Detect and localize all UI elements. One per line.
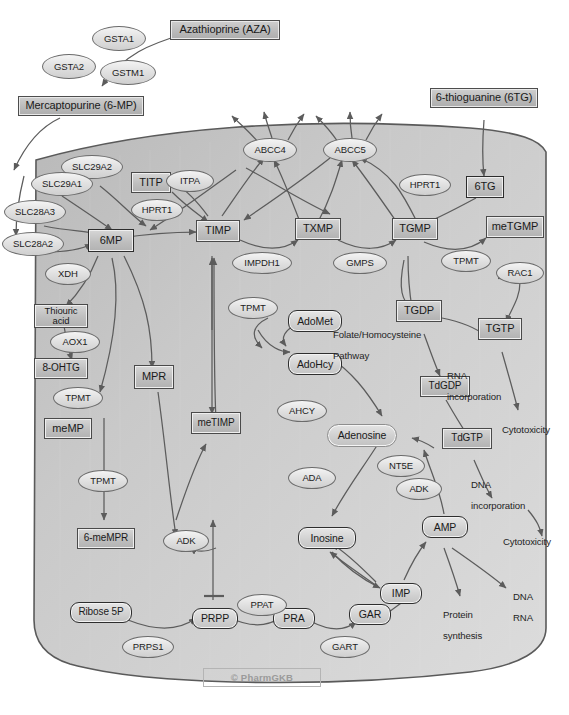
metabolite-label: IMP [392, 588, 410, 599]
enzyme-ahcy[interactable]: AHCY [277, 400, 327, 422]
enzyme-label: IMPDH1 [244, 258, 279, 268]
annotation-line2: RNA [513, 613, 533, 624]
watermark-text: © PharmGKB [231, 672, 293, 683]
enzyme-gmps[interactable]: GMPS [333, 252, 387, 274]
annotation-cytotoxicity-rna: Cytotoxicity [502, 424, 568, 437]
transporter-slc29a1[interactable]: SLC29A1 [31, 172, 93, 196]
enzyme-label: PPAT [250, 600, 273, 610]
annotation-line1: RNA [447, 371, 501, 382]
enzyme-aox1[interactable]: AOX1 [50, 331, 100, 353]
metabolite-label: Adenosine [338, 430, 387, 441]
metabolite-timp[interactable]: TIMP [196, 220, 240, 242]
metabolite-titp[interactable]: TITP [131, 172, 171, 193]
drug-box-mercaptopurine[interactable]: Mercaptopurine (6-MP) [18, 96, 144, 116]
enzyme-label: AHCY [289, 406, 315, 416]
metabolite-label: 6TG [474, 181, 495, 192]
enzyme-gart[interactable]: GART [320, 636, 370, 658]
annotation-line1: DNA [471, 480, 525, 491]
metabolite-label: AdoMet [297, 316, 333, 327]
enzyme-label: HPRT1 [142, 205, 172, 215]
enzyme-tpmt-8ohtg[interactable]: TPMT [53, 387, 103, 409]
metabolite-prpp[interactable]: PRPP [192, 608, 238, 629]
enzyme-label: AOX1 [63, 337, 88, 347]
enzyme-itpa[interactable]: ITPA [166, 170, 214, 192]
metabolite-gar[interactable]: GAR [349, 604, 391, 625]
enzyme-adk-mpr[interactable]: ADK [163, 530, 209, 552]
metabolite-metimp[interactable]: meTIMP [191, 412, 241, 434]
enzyme-tpmt-timp[interactable]: TPMT [228, 297, 278, 319]
metabolite-txmp[interactable]: TXMP [295, 218, 341, 240]
metabolite-tgtp[interactable]: TGTP [478, 318, 522, 340]
metabolite-6mp[interactable]: 6MP [88, 229, 134, 252]
annotation-line1: Folate/Homocysteine [333, 330, 421, 341]
enzyme-label: RAC1 [508, 268, 533, 278]
metabolite-mpr[interactable]: MPR [134, 365, 174, 389]
metabolite-ribose-5p[interactable]: Ribose 5P [70, 602, 132, 623]
enzyme-label: TPMT [65, 393, 90, 403]
transporter-abcc4[interactable]: ABCC4 [243, 138, 297, 162]
metabolite-label: Ribose 5P [78, 607, 123, 617]
enzyme-tpmt-tgmp[interactable]: TPMT [441, 250, 491, 272]
metabolite-label: meTGMP [492, 221, 538, 232]
enzyme-xdh[interactable]: XDH [45, 263, 91, 285]
enzyme-label: ITPA [180, 176, 200, 186]
drug-label-6tg: 6-thioguanine (6TG) [436, 92, 533, 103]
metabolite-inosine[interactable]: Inosine [298, 527, 356, 549]
annotation-protein-synthesis: Protein synthesis [443, 613, 505, 639]
metabolite-adenosine[interactable]: Adenosine [327, 424, 397, 447]
metabolite-label: TIMP [205, 225, 231, 236]
enzyme-ppat[interactable]: PPAT [237, 594, 287, 616]
metabolite-6tg[interactable]: 6TG [466, 176, 504, 198]
metabolite-6-memrp[interactable]: 6-meMPR [77, 528, 135, 549]
transporter-label: ABCC5 [334, 145, 365, 155]
enzyme-label: GSTM1 [112, 68, 144, 78]
metabolite-label: AMP [434, 522, 456, 533]
enzyme-nt5e[interactable]: NT5E [377, 455, 425, 477]
transporter-abcc5[interactable]: ABCC5 [323, 138, 377, 162]
transporter-slc28a2[interactable]: SLC28A2 [2, 232, 64, 256]
transporter-label: SLC28A2 [13, 239, 53, 249]
enzyme-prps1[interactable]: PRPS1 [122, 636, 174, 658]
metabolite-metgmp[interactable]: meTGMP [486, 216, 544, 238]
enzyme-hprt1-left[interactable]: HPRT1 [131, 199, 183, 221]
annotation-dna-incorporation: DNA incorporation [471, 483, 543, 509]
metabolite-label: TdGTP [451, 433, 483, 443]
enzyme-label: GMPS [346, 258, 374, 268]
metabolite-tgmp[interactable]: TGMP [392, 218, 438, 240]
metabolite-thiouric-acid[interactable]: Thiouric acid [34, 304, 88, 328]
enzyme-gsta2[interactable]: GSTA2 [42, 54, 96, 79]
enzyme-rac1[interactable]: RAC1 [496, 262, 544, 284]
enzyme-adk-adenosine[interactable]: ADK [396, 478, 442, 500]
pharmgkb-watermark: © PharmGKB [203, 668, 321, 687]
enzyme-tpmt-memp[interactable]: TPMT [78, 470, 128, 492]
annotation-line1: Cytotoxicity [502, 425, 550, 436]
transporter-slc28a3[interactable]: SLC28A3 [4, 200, 66, 224]
annotation-line2: Pathway [333, 351, 421, 362]
metabolite-label: TGDP [404, 305, 434, 316]
annotation-line2: incorporation [471, 501, 525, 512]
enzyme-gstm1[interactable]: GSTM1 [100, 60, 156, 85]
enzyme-impdh1[interactable]: IMPDH1 [232, 252, 292, 274]
metabolite-memp[interactable]: meMP [44, 418, 92, 439]
metabolite-tgdp[interactable]: TGDP [396, 300, 442, 322]
enzyme-gsta1[interactable]: GSTA1 [92, 26, 146, 51]
metabolite-imp[interactable]: IMP [380, 583, 422, 604]
annotation-line1: DNA [513, 592, 533, 603]
metabolite-label: TGTP [486, 323, 515, 334]
metabolite-amp[interactable]: AMP [422, 516, 468, 538]
enzyme-label: GART [332, 642, 358, 652]
drug-box-azathioprine[interactable]: Azathioprine (AZA) [170, 20, 280, 40]
enzyme-ada[interactable]: ADA [288, 467, 336, 489]
metabolite-8-ohtg[interactable]: 8-OHTG [34, 358, 88, 379]
metabolite-label: PRPP [201, 613, 229, 624]
metabolite-label: TGMP [399, 223, 430, 234]
transporter-label: SLC28A3 [15, 207, 55, 217]
drug-box-6-thioguanine[interactable]: 6-thioguanine (6TG) [430, 88, 538, 108]
metabolite-label: TXMP [303, 223, 333, 234]
enzyme-hprt1-right[interactable]: HPRT1 [399, 174, 451, 196]
metabolite-tdgtp[interactable]: TdGTP [442, 428, 492, 449]
transporter-label: SLC29A1 [42, 179, 82, 189]
pathway-diagram: Azathioprine (AZA) Mercaptopurine (6-MP)… [0, 0, 569, 715]
enzyme-label: XDH [58, 269, 78, 279]
annotation-line1: Cytotoxicity [503, 537, 551, 548]
